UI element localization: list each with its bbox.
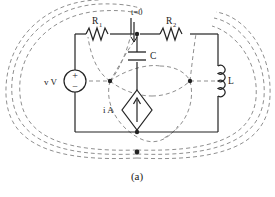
switch-label: t=0	[131, 7, 142, 17]
node-top	[135, 32, 139, 36]
switch-symbol	[128, 18, 137, 42]
circuit-figure: R 1 R 2 t=0 C L + − v V i A	[0, 0, 275, 197]
node-bottom	[135, 130, 139, 134]
node-left-mesh	[108, 79, 112, 83]
resistor-r1-label: R	[92, 16, 99, 26]
dual-graph-inner-links	[75, 34, 218, 142]
capacitor-symbol	[128, 52, 146, 60]
voltage-source-minus: −	[72, 81, 78, 92]
current-source-label: i A	[103, 105, 114, 115]
current-source-symbol	[122, 90, 152, 130]
inductor-symbol	[218, 65, 225, 96]
capacitor-label: C	[150, 51, 156, 61]
figure-caption: (a)	[131, 170, 144, 183]
voltage-source-symbol: + −	[64, 70, 86, 92]
voltage-source-label: v V	[44, 77, 58, 87]
resistor-r2-symbol	[160, 28, 182, 40]
node-right-mesh	[188, 79, 192, 83]
circuit-svg: R 1 R 2 t=0 C L + − v V i A	[0, 0, 275, 197]
resistor-r1-symbol	[86, 28, 108, 40]
resistor-r1-subscript: 1	[99, 21, 102, 28]
resistor-r2-subscript: 2	[173, 21, 176, 28]
inductor-label: L	[228, 76, 234, 86]
node-datum	[135, 150, 140, 155]
voltage-source-plus: +	[72, 70, 78, 81]
resistor-r2-label: R	[166, 16, 173, 26]
